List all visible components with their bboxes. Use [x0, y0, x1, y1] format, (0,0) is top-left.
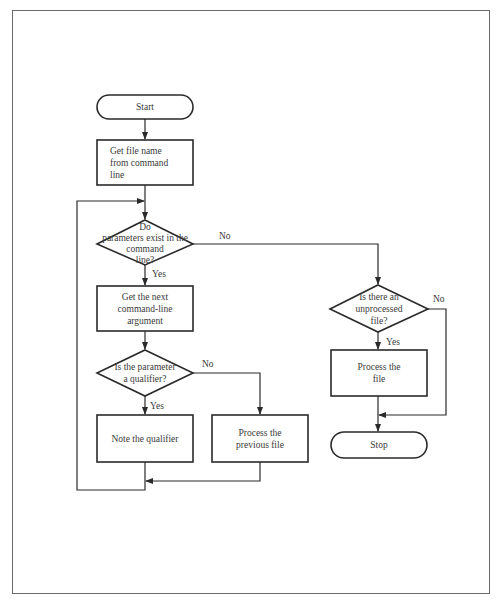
qualifier-no-label: No [202, 358, 214, 370]
qualifier-yes-label: Yes [150, 400, 164, 412]
params-exist-label: Do parameters exist in the command line? [90, 219, 200, 269]
get-file-name-label: Get file name from command line [110, 140, 190, 185]
unprocessed-file-label: Is there an unprocessed file? [330, 285, 428, 332]
process-file-label: Process the file [331, 350, 427, 396]
get-next-arg-label: Get the next command-line argument [97, 286, 193, 331]
start-label: Start [97, 95, 193, 119]
arrow-previous-to-merge [146, 462, 260, 481]
stop-label: Stop [331, 432, 427, 458]
note-qualifier-label: Note the qualifier [97, 415, 193, 462]
params-yes-label: Yes [152, 268, 166, 280]
arrow-params-no [193, 244, 378, 284]
unprocessed-yes-label: Yes [386, 336, 400, 348]
process-previous-label: Process the previous file [212, 415, 308, 462]
params-no-label: No [219, 230, 231, 242]
is-qualifier-label: Is the parameter a qualifier? [97, 350, 193, 396]
arrow-qualifier-no [193, 373, 260, 414]
unprocessed-no-label: No [433, 293, 445, 305]
